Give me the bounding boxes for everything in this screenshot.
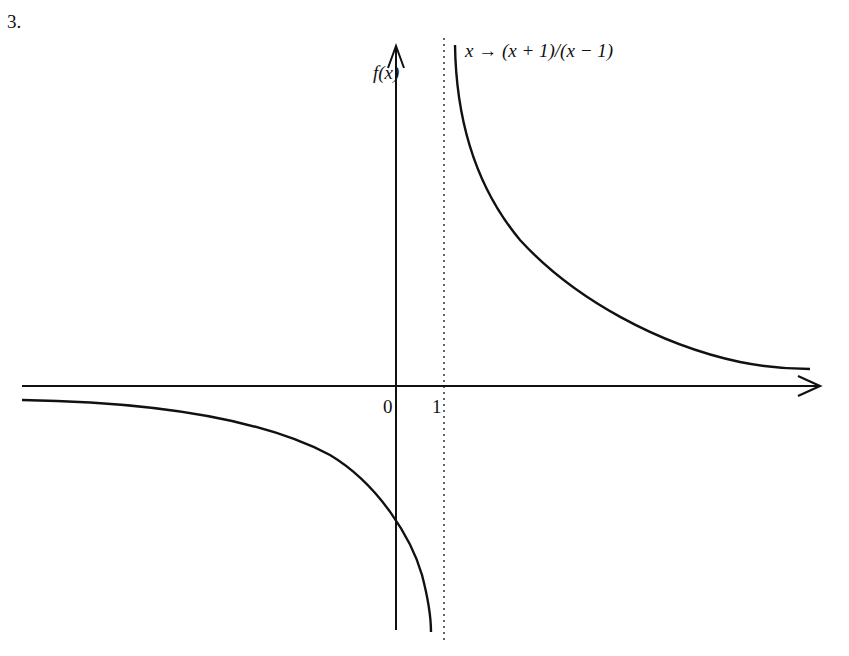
y-axis-label: f(x) (373, 62, 399, 84)
curve-left-branch (22, 400, 431, 632)
graph (0, 0, 849, 656)
curve-right-branch (455, 45, 810, 369)
origin-label: 0 (383, 396, 393, 418)
tick-label-one: 1 (432, 396, 442, 418)
curve-title: x → (x + 1)/(x − 1) (465, 40, 613, 62)
